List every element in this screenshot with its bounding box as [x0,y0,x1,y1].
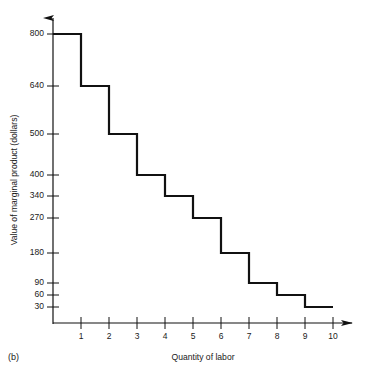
vmp-step-curve [53,34,333,307]
y-tick-label-500: 500 [30,128,44,138]
x-tick-label-1: 1 [79,331,84,341]
x-tick-label-8: 8 [275,331,280,341]
y-tick-label-60: 60 [35,289,45,299]
x-tick-label-4: 4 [163,331,168,341]
x-tick-label-5: 5 [191,331,196,341]
figure-panel: 800 640 500 400 340 270 180 90 60 30 1 [0,0,376,376]
x-tick-label-2: 2 [107,331,112,341]
y-tick-label-340: 340 [30,190,44,200]
x-tick-label-9: 9 [303,331,308,341]
chart-svg: 800 640 500 400 340 270 180 90 60 30 1 [0,0,376,376]
y-tick-label-400: 400 [30,169,44,179]
x-tick-label-3: 3 [135,331,140,341]
figure-caption: (b) [8,352,19,362]
y-tick-label-640: 640 [30,80,44,90]
x-axis-tick-labels: 1 2 3 4 5 6 7 8 9 10 [79,331,338,341]
y-tick-label-90: 90 [35,277,45,287]
y-axis-title: Value of marginal product (dollars) [9,115,19,246]
x-tick-label-6: 6 [219,331,224,341]
y-tick-label-800: 800 [30,28,44,38]
y-tick-label-270: 270 [30,212,44,222]
y-tick-label-30: 30 [35,301,45,311]
y-tick-label-180: 180 [30,247,44,257]
x-tick-label-10: 10 [328,331,338,341]
x-tick-label-7: 7 [247,331,252,341]
y-axis-tick-labels: 800 640 500 400 340 270 180 90 60 30 [30,28,44,311]
x-axis-title: Quantity of labor [171,352,234,362]
